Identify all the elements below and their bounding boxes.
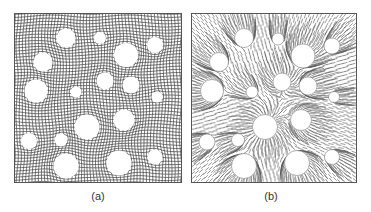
mesh-grid-diagram [14,13,182,183]
inclusion-circle [34,53,53,72]
inclusion-circle [273,73,291,91]
inclusion-circle [329,92,340,103]
inclusion-circle [199,134,215,150]
radial-streamline-diagram [191,13,357,183]
inclusion-circle [71,87,82,98]
inclusion-circle [54,154,79,179]
inclusion-circle [272,33,284,45]
inclusion-circle [148,150,163,165]
inclusion-circle [55,134,68,147]
inclusion-circle [291,44,315,68]
inclusion-circle [94,32,106,44]
inclusion-circle [147,37,163,53]
inclusion-circle [123,77,140,94]
caption-b: (b) [251,190,291,202]
inclusion-circle [57,29,76,48]
inclusion-circle [325,150,340,165]
inclusion-circle [299,77,317,95]
inclusion-circle [232,134,245,147]
inclusion-circle [324,38,340,54]
inclusion-circle [235,29,254,48]
inclusion-circle [107,151,132,176]
inclusion-circle [97,73,114,90]
inclusion-circle [21,133,37,149]
inclusion-circle [25,80,48,103]
inclusion-circle [201,80,224,103]
panel-b [191,13,357,183]
inclusion-circle [152,92,163,103]
inclusion-circle [285,151,310,176]
inclusion-circle [232,154,257,179]
inclusion-circle [291,110,312,131]
inclusion-circle [253,115,278,140]
inclusion-circle [114,110,135,131]
panel-a [14,13,182,183]
inclusion-circle [75,115,100,140]
inclusion-circle [210,53,229,72]
caption-a: (a) [78,190,118,202]
inclusion-circle [246,86,258,98]
inclusion-circle [114,43,138,67]
